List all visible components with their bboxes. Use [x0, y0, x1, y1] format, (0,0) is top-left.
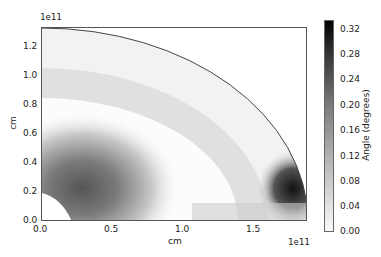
- x-tick: 0.5: [104, 224, 118, 234]
- colorbar: [324, 20, 334, 232]
- heatmap-image: [42, 28, 307, 221]
- y-tick: 0.4: [23, 157, 37, 167]
- colorbar-tick: 0.12: [340, 151, 360, 161]
- y-tick: 1.0: [23, 70, 37, 80]
- colorbar-tick: 0.24: [340, 74, 360, 84]
- colorbar-label: Angle (degrees): [361, 89, 371, 161]
- y-offset-label: 1e11: [40, 12, 62, 22]
- colorbar-tick: 0.20: [340, 100, 360, 110]
- y-tick: 1.2: [23, 41, 37, 51]
- x-tick: 0.0: [33, 224, 47, 234]
- colorbar-tick: 0.16: [340, 125, 360, 135]
- y-tick: 0.6: [23, 128, 37, 138]
- colorbar-tick: 0.08: [340, 176, 360, 186]
- y-axis-label: cm: [8, 116, 18, 130]
- heatmap-plot-area: [41, 27, 307, 221]
- y-tick: 0.8: [23, 99, 37, 109]
- y-tick: 0.2: [23, 186, 37, 196]
- colorbar-tick: 0.04: [340, 201, 360, 211]
- colorbar-tick: 0.28: [340, 49, 360, 59]
- colorbar-tick: 0.32: [340, 24, 360, 34]
- x-tick: 1.5: [246, 224, 260, 234]
- x-offset-label: 1e11: [288, 237, 310, 247]
- x-tick: 1.0: [175, 224, 189, 234]
- x-axis-label: cm: [168, 236, 182, 246]
- colorbar-tick: 0.00: [340, 226, 360, 236]
